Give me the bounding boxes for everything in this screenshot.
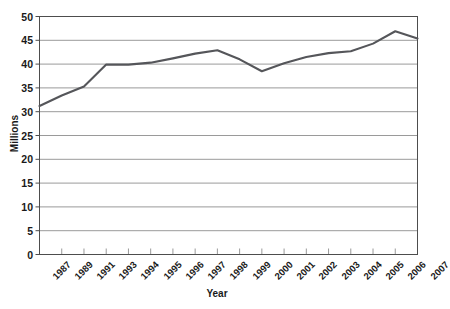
y-tick-label: 30 (11, 107, 33, 117)
x-axis-tick-marks (40, 249, 418, 255)
data-series-line (40, 31, 418, 106)
y-tick-label: 20 (11, 154, 33, 164)
y-axis-tick-marks (36, 17, 40, 255)
x-axis-title: Year (0, 288, 434, 299)
y-tick-label: 10 (11, 202, 33, 212)
y-tick-label: 15 (11, 178, 33, 188)
y-tick-label: 35 (11, 83, 33, 93)
y-tick-label: 5 (11, 226, 33, 236)
y-tick-label: 0 (11, 250, 33, 260)
y-tick-label: 40 (11, 59, 33, 69)
y-tick-label: 25 (11, 131, 33, 141)
gridlines (40, 40, 418, 230)
y-tick-label: 45 (11, 35, 33, 45)
y-tick-label: 50 (11, 12, 33, 22)
